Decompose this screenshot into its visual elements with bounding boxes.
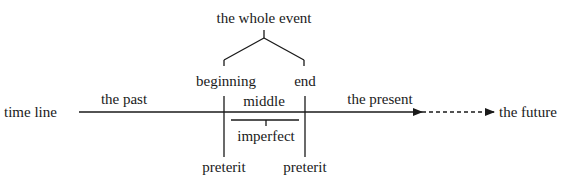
preterit-end-label: preterit (283, 159, 327, 175)
whole-event-label: the whole event (217, 10, 313, 26)
timeline-label: time line (4, 104, 57, 120)
future-label: the future (499, 104, 557, 120)
present-label: the present (347, 91, 413, 107)
preterit-start-label: preterit (202, 159, 246, 175)
middle-label: middle (243, 93, 285, 109)
tree-branch-right (264, 38, 304, 60)
imperfect-label: imperfect (237, 128, 295, 144)
tree-branch-left (224, 38, 264, 60)
beginning-label: beginning (196, 73, 256, 89)
aspect-timeline-diagram: the whole event beginning end middle tim… (0, 0, 576, 184)
past-label: the past (101, 91, 148, 107)
end-label: end (294, 73, 316, 89)
